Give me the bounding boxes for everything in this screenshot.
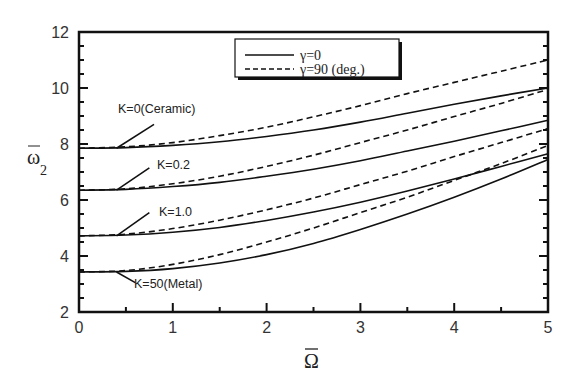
x-axis-title-omega: Ω [304, 350, 319, 372]
x-tick-label: 3 [356, 319, 365, 336]
annotation-pointer-0 [117, 124, 155, 148]
annotation-k0-ceramic: K=0(Ceramic) [118, 102, 195, 116]
series-line-6 [79, 159, 548, 272]
annotation-k50-metal: K=50(Metal) [134, 277, 202, 291]
annotation-k0-2: K=0.2 [157, 158, 190, 172]
legend-label-gamma0: γ=0 [299, 48, 321, 63]
y-tick-label: 4 [60, 248, 69, 265]
y-tick-label: 12 [51, 24, 69, 41]
series-line-7 [79, 145, 548, 272]
x-tick-label: 4 [450, 319, 459, 336]
chart: 24681012012345 K=0(Ceramic) K=0.2 K=1.0 … [0, 0, 578, 384]
x-axis-title: Ω [304, 349, 319, 372]
legend: γ=0 γ=90 (deg.) [235, 39, 402, 80]
series-line-0 [79, 88, 548, 148]
y-axis-title-omega: ω [27, 146, 40, 168]
y-tick-label: 8 [60, 136, 69, 153]
minor-ticks [79, 46, 548, 312]
y-axis-title: ω 2 [27, 146, 47, 178]
series-line-4 [79, 154, 548, 236]
x-tick-label: 1 [168, 319, 177, 336]
x-tick-label: 2 [262, 319, 271, 336]
y-tick-label: 10 [51, 80, 69, 97]
y-tick-label: 2 [60, 304, 69, 321]
annotation-k1-0: K=1.0 [159, 205, 192, 219]
y-tick-label: 6 [60, 192, 69, 209]
data-curves [79, 60, 548, 272]
x-tick-label: 5 [544, 319, 553, 336]
y-axis-title-subscript: 2 [40, 163, 47, 178]
x-tick-label: 0 [75, 319, 84, 336]
annotation-pointer-3 [117, 272, 136, 283]
legend-label-gamma90: γ=90 (deg.) [299, 62, 365, 78]
